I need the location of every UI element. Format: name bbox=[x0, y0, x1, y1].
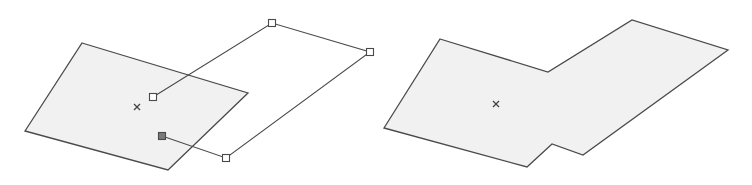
before-panel bbox=[25, 20, 374, 171]
merged-polygon bbox=[384, 20, 728, 167]
vertex-handle[interactable] bbox=[367, 49, 374, 56]
after-panel bbox=[384, 20, 728, 167]
vertex-handle[interactable] bbox=[223, 155, 230, 162]
polygon-union-diagram bbox=[0, 0, 752, 185]
vertex-handle[interactable] bbox=[269, 20, 276, 27]
active-vertex-handle[interactable] bbox=[159, 133, 166, 140]
vertex-handle[interactable] bbox=[150, 94, 157, 101]
